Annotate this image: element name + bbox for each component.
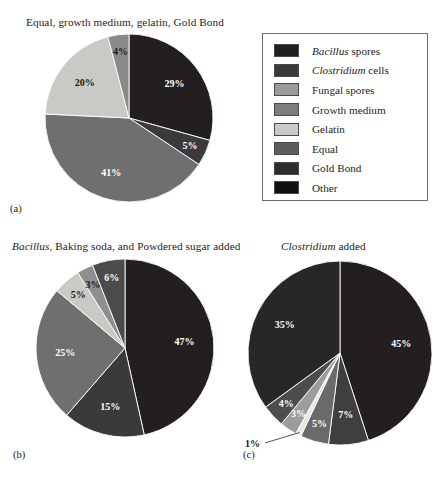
pie-chart-c: 45%7%5%3%4%35%1% (245, 258, 430, 443)
pie-chart-c-svg: 45%7%5%3%4%35%1% (245, 258, 445, 458)
legend-item-label: Growth medium (312, 104, 386, 116)
legend-swatch-icon (274, 83, 299, 96)
legend-item-5[interactable]: Equal (274, 139, 427, 159)
pie-slice-label: 5% (71, 289, 86, 300)
title-genus: Clostridium (281, 240, 336, 252)
legend-item-label: Equal (312, 143, 338, 155)
legend-swatch-icon (274, 181, 299, 194)
chart-b-title: Bacillus, Baking soda, and Powdered suga… (12, 240, 240, 252)
pie-slice-label: 47% (175, 336, 195, 347)
legend-item-label: Gold Bond (312, 162, 361, 174)
legend-item-1[interactable]: Clostridium cells (274, 61, 427, 81)
legend-genus: Bacillus (312, 45, 349, 57)
pie-slice-label: 35% (275, 319, 295, 330)
legend-swatch-icon (274, 142, 299, 155)
panel-label-c: (c) (243, 449, 255, 460)
legend-list: Bacillus sporesClostridium cellsFungal s… (263, 34, 427, 200)
pie-slice-label: 25% (55, 347, 75, 358)
legend-item-label: Gelatin (312, 123, 345, 135)
title-rest: added (336, 240, 366, 252)
legend-item-label: Clostridium cells (312, 64, 389, 76)
legend-swatch-icon (274, 162, 299, 175)
pie-chart-a-svg: 29%5%41%20%4% (44, 33, 214, 203)
legend-item-2[interactable]: Fungal spores (274, 80, 427, 100)
legend: Bacillus sporesClostridium cellsFungal s… (262, 33, 428, 201)
pie-slice-label-callout: 1% (245, 438, 260, 449)
pie-slice-label: 5% (183, 140, 198, 151)
pie-slice-label: 7% (338, 409, 353, 420)
legend-item-label: Fungal spores (312, 84, 374, 96)
pie-slice-label: 15% (100, 401, 120, 412)
legend-item-6[interactable]: Gold Bond (274, 159, 427, 179)
callout-leader-line (265, 433, 300, 444)
legend-rest: cells (365, 64, 388, 76)
chart-c-title: Clostridium added (281, 240, 366, 252)
pie-slice-label: 3% (86, 279, 101, 290)
pie-slice-label: 5% (312, 418, 327, 429)
panel-label-a: (a) (10, 203, 22, 214)
legend-genus: Clostridium (312, 64, 365, 76)
pie-chart-b-svg: 47%15%25%5%3%6% (35, 258, 215, 438)
panel-label-b: (b) (13, 449, 25, 460)
pie-slice-label: 4% (279, 398, 294, 409)
legend-swatch-icon (274, 103, 299, 116)
pie-slice-label: 4% (113, 46, 128, 57)
legend-item-7[interactable]: Other (274, 178, 427, 198)
legend-swatch-icon (274, 44, 299, 57)
pie-chart-a: 29%5%41%20%4% (44, 33, 214, 203)
title-genus: Bacillus (12, 240, 49, 252)
legend-rest: spores (349, 45, 380, 57)
legend-swatch-icon (274, 64, 299, 77)
legend-item-3[interactable]: Growth medium (274, 100, 427, 120)
title-text: Equal, growth medium, gelatin, Gold Bond (26, 16, 224, 28)
legend-item-4[interactable]: Gelatin (274, 119, 427, 139)
pie-slice-label: 41% (101, 167, 121, 178)
chart-a-title: Equal, growth medium, gelatin, Gold Bond (26, 16, 224, 28)
pie-slice-label: 29% (164, 78, 184, 89)
title-rest: , Baking soda, and Powdered sugar added (49, 240, 240, 252)
legend-swatch-icon (274, 123, 299, 136)
legend-item-label: Bacillus spores (312, 45, 380, 57)
pie-slice-label: 3% (291, 408, 306, 419)
pie-chart-b: 47%15%25%5%3%6% (35, 258, 215, 438)
pie-slice-label: 6% (104, 272, 119, 283)
pie-slice-label: 20% (75, 77, 95, 88)
legend-item-0[interactable]: Bacillus spores (274, 41, 427, 61)
pie-slice-label: 45% (391, 338, 411, 349)
legend-item-label: Other (312, 182, 337, 194)
